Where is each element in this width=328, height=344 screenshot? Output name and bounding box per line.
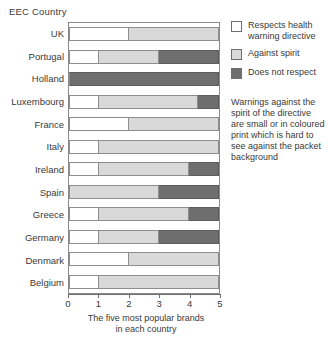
note-line: print which is hard to [231,130,328,141]
bar-segment-1 [99,50,159,64]
category-label-ireland: Ireland [35,164,64,175]
category-slot: Italy [0,135,64,158]
category-label-spain: Spain [40,187,64,198]
bar-row [69,248,219,271]
x-axis-title: The five most popular brandsin each coun… [58,313,234,335]
bar-segment-2 [189,162,219,176]
category-label-uk: UK [51,28,64,39]
bar-segment-0 [69,252,129,266]
bar-row [69,113,219,136]
category-label-greece: Greece [33,209,64,220]
bar-row [69,226,219,249]
category-axis-labels: UKPortugalHollandLuxembourgFranceItalyIr… [0,22,64,294]
x-tick-label: 5 [217,298,222,309]
bar-segment-2 [159,50,219,64]
legend-label: Respects healthwarning directive [248,20,316,41]
bar-segment-1 [69,185,159,199]
legend-item[interactable]: Against spirit [231,48,326,60]
bar-row [69,271,219,294]
note-line: spirit of the directive [231,108,328,119]
x-axis-title-line: in each country [58,324,234,335]
legend-item[interactable]: Respects healthwarning directive [231,20,326,41]
category-label-belgium: Belgium [30,277,64,288]
stacked-bar-portugal [69,50,219,64]
bar-row [69,23,219,46]
bar-segment-2 [189,207,219,221]
x-tick-label: 4 [187,298,192,309]
bar-segment-2 [69,72,219,86]
stacked-bar-chart: EEC Country UKPortugalHollandLuxembourgF… [0,0,328,344]
category-label-holland: Holland [32,73,64,84]
legend-item[interactable]: Does not respect [231,67,326,79]
category-slot: Luxembourg [0,90,64,113]
bar-segment-1 [129,252,219,266]
bar-segment-0 [69,50,99,64]
white-swatch [231,21,242,32]
category-label-france: France [34,119,64,130]
category-slot: Ireland [0,158,64,181]
bar-segment-1 [129,117,219,131]
bar-segment-1 [99,207,189,221]
bar-segment-0 [69,162,99,176]
bar-segment-2 [159,185,219,199]
note-line: Warnings against the [231,97,328,108]
category-slot: Spain [0,181,64,204]
bar-segment-1 [129,27,219,41]
x-tick-label: 1 [96,298,101,309]
bar-row [69,158,219,181]
bar-row [69,91,219,114]
bar-segment-1 [99,162,189,176]
stacked-bar-belgium [69,275,219,289]
dark-gray-swatch [231,68,242,79]
stacked-bar-holland [69,72,219,86]
bar-segment-0 [69,27,129,41]
bar-rows [69,23,219,293]
bar-row [69,181,219,204]
y-axis-title: EEC Country [9,6,67,17]
stacked-bar-denmark [69,252,219,266]
category-slot: Denmark [0,249,64,272]
category-slot: France [0,113,64,136]
stacked-bar-spain [69,185,219,199]
category-slot: Portugal [0,45,64,68]
bar-segment-1 [99,95,198,109]
stacked-bar-greece [69,207,219,221]
x-axis-tick-labels: 012345 [68,298,220,310]
bar-segment-0 [69,230,99,244]
category-label-germany: Germany [25,232,64,243]
bar-segment-0 [69,95,99,109]
legend-label: Does not respect [248,67,316,78]
stacked-bar-uk [69,27,219,41]
category-slot: Greece [0,203,64,226]
note-line: see against the packet [231,141,328,152]
stacked-bar-germany [69,230,219,244]
x-tick-label: 3 [157,298,162,309]
explanatory-note: Warnings against thespirit of the direct… [231,97,328,163]
bar-row [69,203,219,226]
category-slot: Belgium [0,271,64,294]
category-slot: Germany [0,226,64,249]
bar-segment-0 [69,275,99,289]
stacked-bar-luxembourg [69,95,219,109]
stacked-bar-france [69,117,219,131]
note-line: background [231,152,328,163]
bar-row [69,46,219,69]
category-slot: UK [0,22,64,45]
legend-label: Against spirit [248,48,300,59]
bar-segment-0 [69,207,99,221]
bar-segment-1 [99,230,159,244]
bar-segment-1 [99,275,219,289]
plot-area [68,22,220,294]
bar-row [69,68,219,91]
category-label-portugal: Portugal [29,51,64,62]
category-label-luxembourg: Luxembourg [11,96,64,107]
bar-segment-0 [69,140,99,154]
legend: Respects healthwarning directiveAgainst … [231,20,326,86]
category-label-denmark: Denmark [25,255,64,266]
x-tick-label: 2 [126,298,131,309]
bar-segment-2 [159,230,219,244]
note-line: are small or in coloured [231,119,328,130]
bar-row [69,136,219,159]
category-slot: Holland [0,67,64,90]
bar-segment-2 [198,95,219,109]
